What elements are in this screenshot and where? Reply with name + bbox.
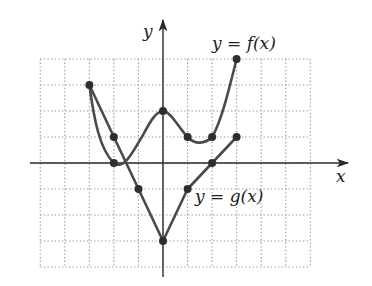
g-point [184,185,192,193]
function-graph: x y y = f(x) y = g(x) [0,0,372,286]
f-label-rhs: f(x) [245,33,276,53]
f-point [233,55,241,63]
g-label-rhs: g(x) [230,186,264,206]
g-label-lhs: y [194,186,205,206]
f-label-lhs: y [211,33,222,53]
g-point [233,133,241,141]
f-point [159,107,167,115]
f-point [85,81,93,89]
g-point [159,237,167,245]
f-point [208,133,216,141]
g-point [208,159,216,167]
g-point [110,133,118,141]
g-label-eq: = [210,186,224,206]
x-axis-label: x [336,166,346,186]
f-point [110,159,118,167]
y-axis-label: y [142,21,153,41]
f-curve-label: y = f(x) [211,33,276,53]
f-point [184,133,192,141]
f-label-eq: = [227,33,241,53]
g-curve-label: y = g(x) [194,186,263,206]
g-point [135,185,143,193]
